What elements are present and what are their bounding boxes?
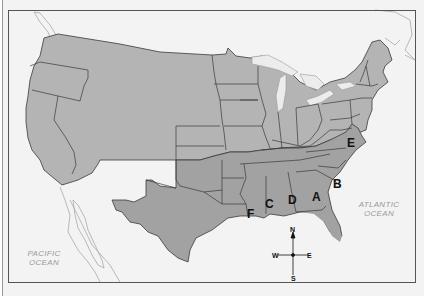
compass-north: N [290, 226, 295, 233]
pacific-ocean-label: PACIFIC OCEAN [24, 249, 64, 267]
compass-south: S [291, 275, 296, 282]
state-label-a: A [312, 191, 321, 203]
compass-east: E [307, 252, 312, 259]
state-label-e: E [347, 137, 355, 149]
state-label-f: F [247, 208, 254, 220]
state-label-b: B [333, 178, 342, 190]
compass-west: W [272, 252, 279, 259]
state-label-d: D [288, 194, 297, 206]
pacific-line1: PACIFIC [24, 249, 64, 258]
state-label-c: C [265, 198, 274, 210]
atlantic-line1: ATLANTIC [356, 200, 402, 209]
atlantic-ocean-label: ATLANTIC OCEAN [356, 200, 402, 218]
atlantic-line2: OCEAN [356, 209, 402, 218]
pacific-line2: OCEAN [24, 258, 64, 267]
